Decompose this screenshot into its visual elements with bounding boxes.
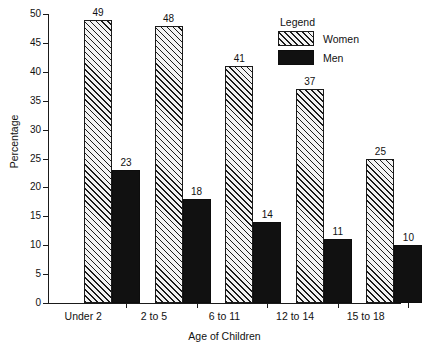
y-tick-label: 40 (13, 67, 41, 77)
y-tick-mark (43, 245, 49, 246)
y-tick-label: 0 (13, 298, 41, 308)
x-tick-mark (338, 303, 339, 308)
y-tick-label: 15 (13, 211, 41, 221)
bar-value-label: 10 (388, 232, 426, 243)
y-tick-mark (43, 159, 49, 160)
y-tick-label-wrap: 40 (0, 67, 41, 77)
bar-value-label: 18 (177, 186, 217, 197)
bar-value-label: 48 (149, 13, 189, 24)
bar-value-label: 41 (219, 53, 259, 64)
y-tick-label: 50 (13, 9, 41, 19)
y-tick-mark (43, 101, 49, 102)
y-tick-mark (43, 14, 49, 15)
y-tick-label: 10 (13, 240, 41, 250)
bar-men-under-2 (112, 170, 140, 303)
x-axis-title: Age of Children (48, 330, 401, 342)
x-axis-label-under-2: Under 2 (48, 310, 119, 322)
bar-men-6-to-11 (253, 222, 281, 303)
bar-value-label: 49 (78, 7, 118, 18)
bar-value-label: 23 (106, 157, 146, 168)
legend-label-women: Women (323, 33, 359, 45)
bar-men-12-to-14 (324, 239, 352, 303)
y-tick-label-wrap: 15 (0, 211, 41, 221)
y-tick-mark (43, 216, 49, 217)
y-tick-mark (43, 72, 49, 73)
bar-value-label: 14 (247, 209, 287, 220)
y-tick-mark (43, 187, 49, 188)
bar-value-label: 11 (318, 226, 358, 237)
legend-swatch-women-icon (278, 31, 314, 46)
x-tick-mark (267, 303, 268, 308)
y-tick-label-wrap: 45 (0, 38, 41, 48)
x-axis-line (48, 303, 401, 304)
legend-item-women: Women (278, 31, 398, 46)
y-tick-label: 5 (13, 269, 41, 279)
x-axis-label-15-to-18: 15 to 18 (330, 310, 401, 322)
y-tick-label-wrap: 30 (0, 125, 41, 135)
bar-women-12-to-14 (296, 89, 324, 303)
bar-women-2-to-5 (155, 26, 183, 303)
y-tick-label-wrap: 0 (0, 298, 41, 308)
bar-men-15-to-18 (394, 245, 422, 303)
bar-value-label: 37 (290, 76, 330, 87)
y-tick-label: 45 (13, 38, 41, 48)
x-tick-mark (197, 303, 198, 308)
legend-label-men: Men (323, 52, 343, 64)
y-tick-label-wrap: 25 (0, 154, 41, 164)
y-tick-label-wrap: 20 (0, 182, 41, 192)
x-tick-mark (408, 303, 409, 308)
y-tick-mark (43, 303, 49, 304)
bar-men-2-to-5 (183, 199, 211, 303)
y-tick-mark (43, 274, 49, 275)
y-tick-label-wrap: 10 (0, 240, 41, 250)
x-axis-label-2-to-5: 2 to 5 (119, 310, 190, 322)
y-tick-label-wrap: 50 (0, 9, 41, 19)
y-axis-title: Percentage (9, 97, 20, 187)
y-tick-label-wrap: 35 (0, 96, 41, 106)
y-tick-mark (43, 43, 49, 44)
bar-value-label: 25 (360, 146, 400, 157)
legend-swatch-men-icon (278, 50, 314, 65)
y-tick-mark (43, 130, 49, 131)
x-axis-label-12-to-14: 12 to 14 (260, 310, 331, 322)
legend: Legend Women Men (278, 16, 398, 69)
bar-women-15-to-18 (366, 159, 394, 304)
bar-women-6-to-11 (225, 66, 253, 303)
x-tick-mark (126, 303, 127, 308)
legend-title: Legend (280, 16, 398, 28)
legend-item-men: Men (278, 50, 398, 65)
y-tick-label-wrap: 5 (0, 269, 41, 279)
x-axis-label-6-to-11: 6 to 11 (189, 310, 260, 322)
